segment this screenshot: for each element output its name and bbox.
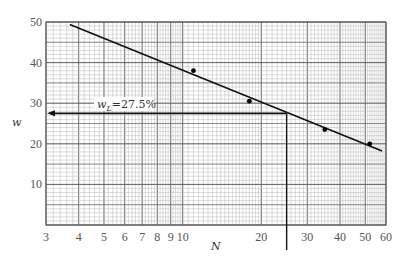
data-point — [367, 141, 372, 146]
x-tick-label: 8 — [154, 230, 160, 244]
y-tick-label: 40 — [30, 56, 42, 70]
x-tick-label: 40 — [334, 230, 346, 244]
wl-annotation: wL=27.5% — [94, 97, 156, 113]
y-tick-label: 20 — [30, 137, 42, 151]
x-tick-label: 5 — [101, 230, 107, 244]
liquid-limit-chart: 34567891020304050601020304050 wL=27.5% w… — [0, 0, 408, 264]
y-tick-label: 30 — [30, 96, 42, 110]
y-tick-label: 10 — [30, 177, 42, 191]
data-point — [247, 99, 252, 104]
x-tick-label: 20 — [255, 230, 267, 244]
x-tick-label: 50 — [359, 230, 371, 244]
annotation-label: wL=27.5% — [97, 98, 156, 113]
x-tick-label: 60 — [380, 230, 392, 244]
y-axis-label: w — [12, 116, 22, 129]
x-tick-label: 6 — [122, 230, 128, 244]
x-tick-label: 30 — [301, 230, 313, 244]
x-tick-label: 10 — [177, 230, 189, 244]
data-point — [322, 127, 327, 132]
plot-grid — [46, 22, 386, 225]
x-axis-label: N — [210, 240, 221, 253]
x-tick-label: 9 — [168, 230, 174, 244]
data-point — [191, 68, 196, 73]
x-tick-label: 4 — [76, 230, 82, 244]
y-tick-label: 50 — [30, 15, 42, 29]
x-tick-label: 3 — [43, 230, 49, 244]
x-tick-label: 7 — [139, 230, 145, 244]
